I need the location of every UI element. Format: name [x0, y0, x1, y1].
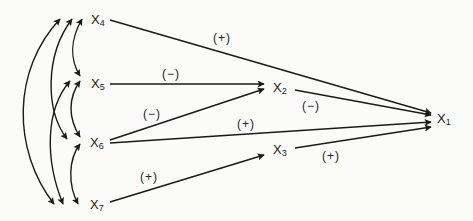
node-x3-subscript: 3 [282, 148, 287, 158]
node-x4: X4 [91, 13, 105, 28]
node-x2: X2 [273, 81, 287, 96]
sign-x3-x1: (+) [322, 150, 340, 162]
node-x6-subscript: 6 [99, 141, 104, 151]
sign-x2-x1: (−) [302, 100, 320, 112]
arrow-x6-to-x1 [110, 122, 431, 143]
sign-x6-x2: (−) [143, 108, 161, 120]
node-x5: X5 [91, 77, 105, 92]
sign-x7-x3: (+) [140, 171, 158, 183]
path-diagram-canvas [0, 0, 473, 221]
sign-x4-x1: (+) [213, 32, 231, 44]
node-x1-subscript: 1 [446, 117, 451, 127]
node-x2-base: X [273, 80, 282, 95]
arrow-x6-to-x2 [110, 89, 264, 140]
node-x1-base: X [437, 111, 446, 126]
node-x3-base: X [273, 142, 282, 157]
correlation-x4-x5 [73, 19, 82, 76]
node-x6: X6 [90, 136, 104, 151]
node-x1: X1 [437, 112, 451, 127]
sign-x5-x2: (−) [162, 68, 180, 80]
correlation-x4-x6 [51, 19, 72, 139]
node-x7-subscript: 7 [99, 203, 104, 213]
node-x2-subscript: 2 [282, 86, 287, 96]
node-x5-base: X [91, 76, 100, 91]
correlation-x5-x6 [71, 81, 80, 137]
node-x7-base: X [90, 197, 99, 212]
node-x4-base: X [91, 12, 100, 27]
sign-x6-x1: (+) [237, 118, 255, 130]
node-x6-base: X [90, 135, 99, 150]
correlation-x5-x7 [50, 81, 70, 204]
arrow-x7-to-x3 [110, 155, 264, 202]
correlation-x6-x7 [71, 144, 80, 204]
node-x5-subscript: 5 [100, 82, 105, 92]
node-x3: X3 [273, 143, 287, 158]
arrow-x4-to-x1 [110, 20, 431, 113]
node-x7: X7 [90, 198, 104, 213]
node-x4-subscript: 4 [100, 18, 105, 28]
